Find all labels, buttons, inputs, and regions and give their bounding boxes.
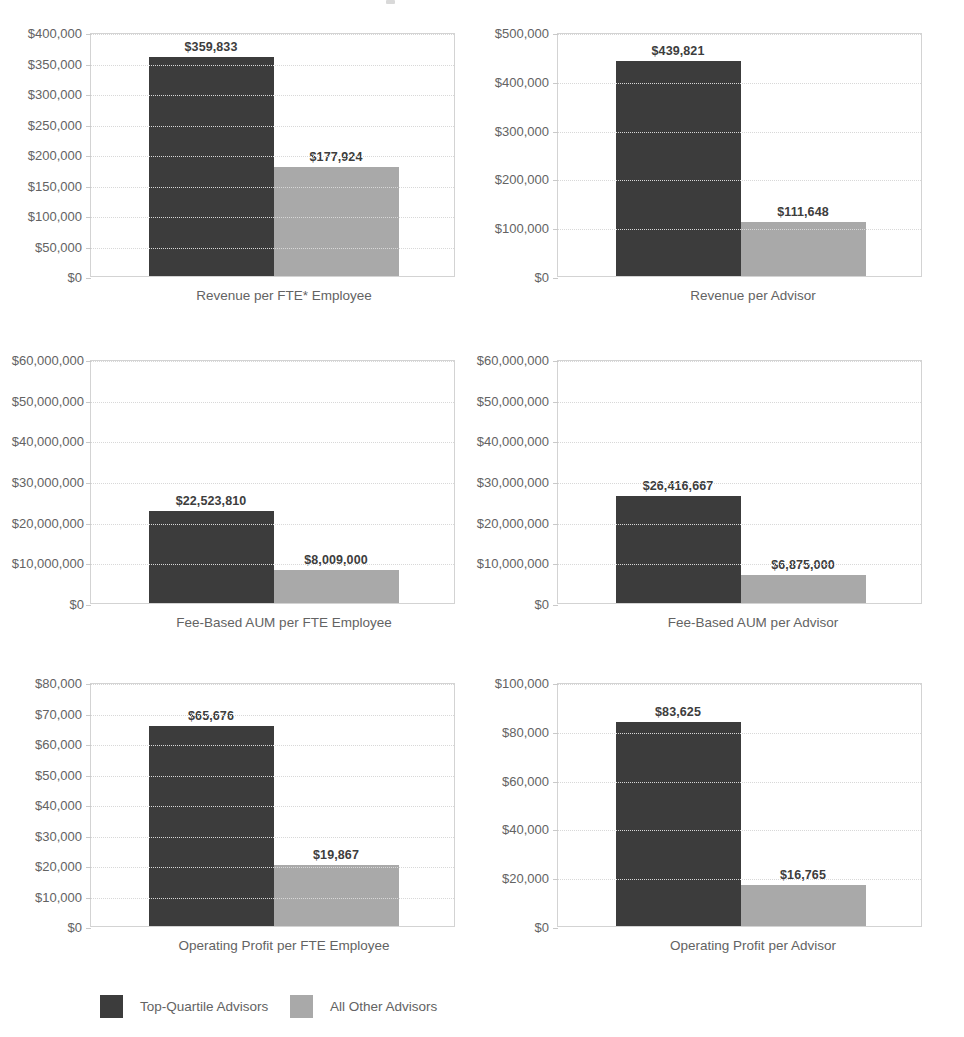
- gridline: [91, 715, 454, 716]
- y-tick-label: $40,000,000: [477, 435, 549, 448]
- bar-value-label: $177,924: [310, 151, 363, 164]
- y-tick-mark: [86, 278, 91, 279]
- bar-value-label: $19,867: [313, 849, 359, 862]
- gridline: [91, 483, 454, 484]
- gridline: [91, 806, 454, 807]
- gridline: [91, 217, 454, 218]
- y-tick-mark: [86, 867, 91, 868]
- y-tick-mark: [553, 83, 558, 84]
- y-axis-labels: $0$10,000,000$20,000,000$30,000,000$40,0…: [0, 360, 86, 604]
- y-tick-label: $350,000: [28, 57, 82, 70]
- y-tick-mark: [553, 524, 558, 525]
- y-tick-label: $20,000: [502, 872, 549, 885]
- plot-area: $65,676$19,867: [90, 683, 455, 927]
- y-tick-label: $20,000,000: [477, 516, 549, 529]
- y-tick-label: $400,000: [28, 27, 82, 40]
- y-tick-label: $60,000: [35, 738, 82, 751]
- bar-value-label: $6,875,000: [771, 559, 835, 572]
- legend-swatch-icon: [290, 995, 313, 1018]
- y-tick-mark: [86, 483, 91, 484]
- y-tick-label: $200,000: [28, 149, 82, 162]
- plot-area: $439,821$111,648: [557, 33, 922, 277]
- y-tick-mark: [86, 442, 91, 443]
- bar-value-label: $439,821: [652, 45, 705, 58]
- y-tick-mark: [553, 442, 558, 443]
- y-tick-label: $200,000: [495, 173, 549, 186]
- gridline: [91, 442, 454, 443]
- bar-value-label: $83,625: [655, 706, 701, 719]
- gridline: [558, 83, 921, 84]
- bars-container: $83,625$16,765: [558, 684, 921, 926]
- y-tick-mark: [553, 34, 558, 35]
- gridline: [91, 95, 454, 96]
- y-tick-mark: [86, 156, 91, 157]
- y-tick-mark: [86, 95, 91, 96]
- y-tick-mark: [86, 806, 91, 807]
- plot-area: $83,625$16,765: [557, 683, 922, 927]
- y-tick-mark: [553, 361, 558, 362]
- y-axis-labels: $0$100,000$200,000$300,000$400,000$500,0…: [482, 33, 553, 277]
- y-tick-label: $50,000: [35, 768, 82, 781]
- legend-item-all-other-advisors: All Other Advisors: [290, 995, 437, 1018]
- y-tick-label: $250,000: [28, 118, 82, 131]
- bar-top-quartile: [149, 726, 274, 926]
- gridline: [91, 564, 454, 565]
- y-tick-mark: [86, 402, 91, 403]
- bar-top-quartile: [616, 722, 741, 926]
- y-tick-mark: [86, 837, 91, 838]
- y-tick-mark: [86, 361, 91, 362]
- bars-container: $22,523,810$8,009,000: [91, 361, 454, 603]
- y-tick-label: $80,000: [502, 725, 549, 738]
- chart-caption: Revenue per Advisor: [482, 288, 964, 303]
- y-tick-label: $60,000: [502, 774, 549, 787]
- gridline: [558, 229, 921, 230]
- y-tick-mark: [86, 745, 91, 746]
- y-tick-label: $300,000: [28, 88, 82, 101]
- y-tick-label: $100,000: [495, 222, 549, 235]
- chart-legend: Top-Quartile Advisors All Other Advisors: [0, 995, 964, 1025]
- y-tick-mark: [553, 278, 558, 279]
- bars-container: $439,821$111,648: [558, 34, 921, 276]
- y-tick-label: $40,000,000: [12, 435, 84, 448]
- gridline: [558, 442, 921, 443]
- chart-caption: Fee-Based AUM per Advisor: [482, 615, 964, 630]
- y-tick-mark: [86, 684, 91, 685]
- y-tick-mark: [553, 180, 558, 181]
- gridline: [558, 180, 921, 181]
- gridline: [91, 187, 454, 188]
- y-tick-label: $30,000: [35, 829, 82, 842]
- gridline: [91, 402, 454, 403]
- bars-container: $26,416,667$6,875,000: [558, 361, 921, 603]
- y-tick-label: $10,000,000: [477, 557, 549, 570]
- bar-all-other: [274, 570, 399, 603]
- y-tick-label: $30,000,000: [477, 476, 549, 489]
- plot-area: $26,416,667$6,875,000: [557, 360, 922, 604]
- bar-value-label: $359,833: [185, 41, 238, 54]
- gridline: [91, 837, 454, 838]
- gridline: [91, 776, 454, 777]
- y-tick-label: $10,000: [35, 890, 82, 903]
- y-axis-labels: $0$10,000,000$20,000,000$30,000,000$40,0…: [482, 360, 553, 604]
- gridline: [558, 684, 921, 685]
- bar-all-other: [741, 885, 866, 926]
- chart-operating-profit-per-advisor: $0$20,000$40,000$60,000$80,000$100,000 $…: [482, 650, 964, 970]
- bar-all-other: [741, 575, 866, 603]
- gridline: [91, 867, 454, 868]
- gridline: [91, 65, 454, 66]
- gridline: [91, 156, 454, 157]
- y-tick-mark: [553, 879, 558, 880]
- chart-caption: Fee-Based AUM per FTE Employee: [0, 615, 482, 630]
- y-tick-label: $150,000: [28, 179, 82, 192]
- chart-caption: Operating Profit per FTE Employee: [0, 938, 482, 953]
- y-tick-mark: [553, 684, 558, 685]
- chart-caption: Revenue per FTE* Employee: [0, 288, 482, 303]
- gridline: [558, 524, 921, 525]
- y-tick-label: $50,000: [35, 240, 82, 253]
- gridline: [558, 402, 921, 403]
- y-axis-labels: $0$50,000$100,000$150,000$200,000$250,00…: [0, 33, 86, 277]
- gridline: [91, 745, 454, 746]
- y-tick-mark: [86, 564, 91, 565]
- chart-grid: $0$50,000$100,000$150,000$200,000$250,00…: [0, 0, 964, 965]
- y-tick-mark: [86, 776, 91, 777]
- gridline: [558, 830, 921, 831]
